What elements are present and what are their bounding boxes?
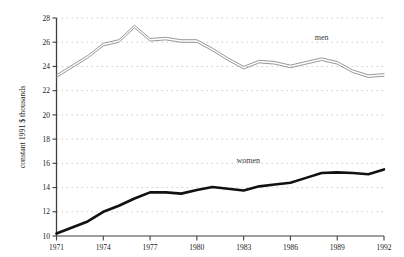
x-tick-label-1971: 1971 (49, 243, 64, 252)
axes (57, 18, 385, 236)
y-tick-label-16: 16 (43, 159, 51, 168)
chart-container: 1012141618202224262819711974197719801983… (0, 0, 404, 257)
y-tick-label-20: 20 (43, 111, 51, 120)
x-tick-label-1980: 1980 (189, 243, 204, 252)
x-tick-label-1986: 1986 (283, 243, 298, 252)
series-line-women (57, 169, 385, 233)
y-axis-ticks: 10121416182022242628 (43, 14, 57, 241)
series-label-men: men (315, 33, 329, 42)
line-chart: 1012141618202224262819711974197719801983… (0, 0, 404, 257)
y-tick-label-26: 26 (43, 38, 51, 47)
x-axis-ticks: 19711974197719801983198619891992 (49, 236, 392, 252)
y-tick-label-12: 12 (43, 207, 51, 216)
x-tick-label-1989: 1989 (330, 243, 345, 252)
x-tick-label-1992: 1992 (377, 243, 392, 252)
y-tick-label-22: 22 (43, 86, 51, 95)
series-line-men-upper (57, 25, 385, 75)
series-men (57, 25, 385, 77)
series-labels: menwomen (237, 33, 329, 166)
x-tick-label-1983: 1983 (236, 243, 251, 252)
y-axis-title: constant 1991 $ thousands (18, 86, 27, 169)
y-tick-label-14: 14 (43, 183, 51, 192)
series-label-women: women (237, 156, 261, 165)
y-tick-label-18: 18 (43, 135, 51, 144)
gridlines (57, 18, 385, 212)
series-women (57, 169, 385, 233)
y-tick-label-28: 28 (43, 14, 51, 23)
x-tick-label-1977: 1977 (143, 243, 158, 252)
y-tick-label-24: 24 (43, 62, 51, 71)
y-tick-label-10: 10 (43, 232, 51, 241)
x-tick-label-1974: 1974 (96, 243, 111, 252)
series-group (57, 25, 385, 233)
